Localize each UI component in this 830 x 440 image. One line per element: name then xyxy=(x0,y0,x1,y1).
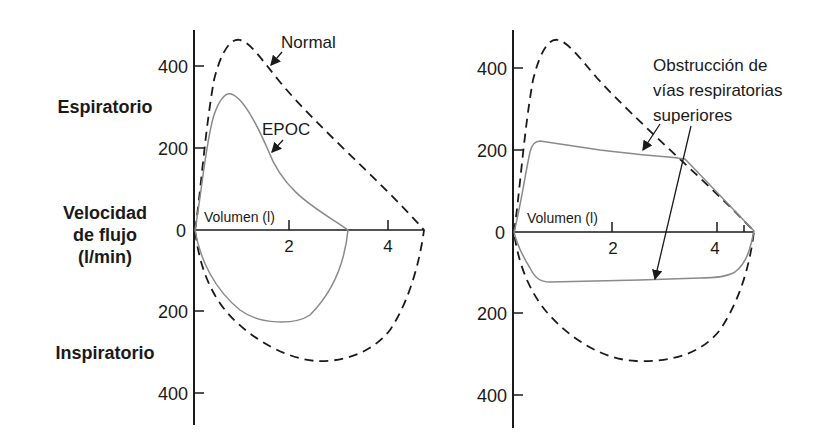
normal-annotation: Normal xyxy=(281,33,336,52)
right-y-tick-400-top: 400 xyxy=(477,59,507,79)
left-chart: 400 200 0 200 400 2 4 Volumen (l) Normal… xyxy=(158,30,424,425)
left-x-tick-4: 4 xyxy=(383,237,392,256)
left-x-tick-2: 2 xyxy=(284,237,293,256)
obstruction-arrow-lower-icon xyxy=(655,126,691,279)
normal-arrow-icon xyxy=(271,52,282,65)
obstruction-arrow-upper-icon xyxy=(643,124,660,150)
copd-annotation: EPOC xyxy=(262,120,310,139)
left-normal-curve xyxy=(195,40,424,361)
left-y-tick-200-top: 200 xyxy=(158,139,188,159)
right-y-tick-200-bottom: 200 xyxy=(477,304,507,324)
charts-canvas: 400 200 0 200 400 2 4 Volumen (l) Normal… xyxy=(0,0,830,440)
right-x-tick-2: 2 xyxy=(608,239,617,258)
right-y-tick-0: 0 xyxy=(495,223,505,243)
obstruction-annotation-line1: Obstrucción de xyxy=(653,56,767,75)
copd-arrow-icon xyxy=(272,140,283,152)
right-chart: 400 200 0 200 400 2 4 Volumen (l) Obstru… xyxy=(477,30,782,428)
right-y-tick-200-top: 200 xyxy=(477,141,507,161)
obstruction-annotation-line2: vías respiratorias xyxy=(653,81,782,100)
right-x-axis-label: Volumen (l) xyxy=(527,210,598,226)
obstruction-annotation-line3: superiores xyxy=(653,106,732,125)
left-y-tick-400-top: 400 xyxy=(158,57,188,77)
right-y-tick-400-bottom: 400 xyxy=(477,386,507,406)
left-y-tick-0: 0 xyxy=(176,221,186,241)
left-y-tick-400-bottom: 400 xyxy=(158,384,188,404)
right-x-tick-4: 4 xyxy=(710,239,719,258)
left-y-tick-200-bottom: 200 xyxy=(158,302,188,322)
left-x-axis-label: Volumen (l) xyxy=(204,209,275,225)
